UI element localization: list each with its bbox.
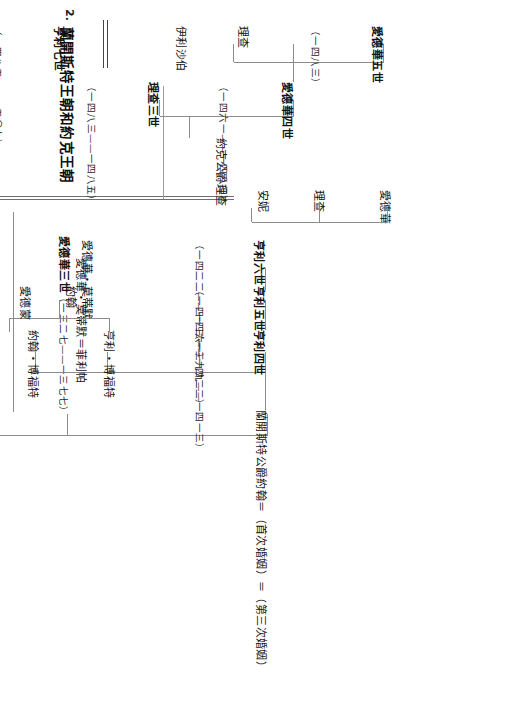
node-edward3: 愛德華三世 [56, 236, 69, 293]
connector-to-henry4 [265, 352, 266, 372]
connector-beaufort-bottom [9, 318, 10, 332]
connector-anne-top [387, 208, 388, 222]
connector-marriage-elizabeth-henry7 [103, 20, 108, 68]
node-elizabeth: 伊利沙伯 [173, 26, 186, 72]
node-henry6: 亨利六世 [251, 240, 264, 286]
node-edward-mid: 愛德華 [377, 190, 390, 224]
node-richard-duke-york: 理查 [235, 26, 248, 49]
connector-to-richard3 [159, 100, 160, 116]
node-henry5: 亨利五世 [251, 286, 264, 332]
connector-henry4-henry5 [265, 300, 266, 330]
connector-mortimer-phillipa [13, 212, 14, 268]
connector-gaunt-children [36, 372, 266, 373]
node-edmund-b2: 愛德蒙 [17, 286, 30, 320]
node-henry4: 亨利四世 [251, 330, 264, 376]
connector-to-edward5 [383, 44, 384, 62]
connector-edward3-spine [0, 435, 268, 436]
node-edward4: 愛德華四世 [279, 82, 292, 139]
connector-anne-bottom [251, 208, 252, 222]
node-henry7: 亨利七世 [51, 26, 64, 72]
connector-to-richard-d [293, 44, 294, 62]
node-richard-mid: 理查 [311, 190, 324, 213]
connector-to-elizabeth [233, 44, 234, 62]
connector-york-spine-b [0, 199, 234, 200]
node-edward-mortimer2: 愛德華・莫蒂默 [79, 240, 92, 320]
connector-henry5-henry6 [265, 268, 266, 290]
connector-mortimer-long [13, 262, 14, 412]
node-henry-beaufort: 亨利・博福特 [101, 330, 114, 398]
connector-beaufort-stem [59, 300, 60, 318]
connector-york-spine-a [0, 196, 234, 197]
node-henry7-years: （一四八五——一五〇九） [0, 26, 2, 150]
connector-edward4-stem [293, 62, 294, 82]
genealogy-chart: 2. 蘭開斯特王朝和約克王朝 愛德華三世 （一三二七——一三七七） 蘭開斯特公爵… [0, 0, 516, 722]
connector-gaunt-stem-a [265, 372, 266, 410]
node-richard3-years: （一四八三——一四八五） [85, 82, 96, 206]
connector-anne-mid [319, 208, 320, 222]
connector-to-edward4 [293, 100, 294, 116]
connector-edward3-stem [67, 414, 68, 436]
node-henry6-years: （一四二二——一四六一） [193, 240, 204, 364]
node-john-b2: 約翰 [63, 286, 76, 309]
connector-to-john-gaunt [267, 414, 268, 436]
section-number: 2. [63, 9, 76, 21]
node-edward3-name: 愛德華三世 [56, 236, 69, 293]
connector-beaufort-top [109, 318, 110, 332]
node-john-beaufort: 約翰・博福特 [25, 330, 38, 398]
connector-york-to-richard [163, 86, 164, 199]
connector-anne-bracket [252, 222, 388, 223]
node-edward4-years: （一四六一——一四八三） [217, 82, 228, 206]
node-edward5: 愛德華五世 [369, 26, 382, 83]
connector-york-stem [189, 116, 190, 138]
node-anne: 安妮 [255, 190, 268, 213]
node-john-gaunt: 蘭開斯特公爵約翰＝（首次婚姻）＝（第三次婚姻） [253, 410, 266, 672]
node-edward5-years: （一四八三） [309, 26, 320, 88]
node-richard3: 理查三世 [145, 82, 158, 128]
